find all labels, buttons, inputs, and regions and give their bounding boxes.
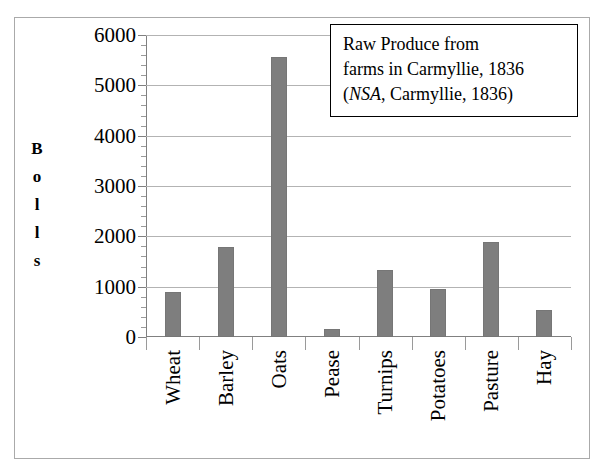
category-axis-label: Wheat <box>162 350 183 405</box>
y-axis-title-letter-1: o <box>33 163 42 191</box>
value-axis-major-tick <box>138 186 146 187</box>
annotation-line-2: farms in Carmyllie, 1836 <box>343 57 567 82</box>
y-axis-title-letter-2: l <box>35 191 40 219</box>
category-axis-tick <box>305 337 306 350</box>
category-label-slot: Pasture <box>465 350 518 460</box>
value-axis-major-tick <box>138 85 146 86</box>
y-axis-title: B o l l s <box>26 135 48 275</box>
category-axis-tick <box>465 337 466 350</box>
bar[interactable] <box>271 57 287 337</box>
y-axis-tick-labels: 0100020003000400050006000 <box>48 0 136 476</box>
bar[interactable] <box>324 329 340 337</box>
y-axis-tick-label: 3000 <box>94 174 136 199</box>
category-label-slot: Wheat <box>146 350 199 460</box>
category-axis-tick <box>571 337 572 350</box>
category-axis-tick <box>359 337 360 350</box>
category-label-slot: Hay <box>518 350 571 460</box>
annotation-line-1: Raw Produce from <box>343 32 567 57</box>
y-axis-title-letter-4: s <box>34 247 41 275</box>
y-axis-tick-label: 4000 <box>94 123 136 148</box>
value-axis-major-tick <box>138 337 146 338</box>
value-axis-major-tick <box>138 35 146 36</box>
category-axis-label: Turnips <box>375 350 396 415</box>
y-axis-tick-label: 5000 <box>94 73 136 98</box>
category-axis-tick <box>146 337 147 350</box>
chart-page: B o l l s 0100020003000400050006000 Whea… <box>0 0 603 476</box>
value-axis-major-tick <box>138 136 146 137</box>
category-axis-label: Hay <box>534 350 555 385</box>
category-axis-label: Barley <box>215 350 236 406</box>
category-axis-label: Pease <box>321 350 342 398</box>
bar[interactable] <box>536 310 552 337</box>
bar[interactable] <box>165 292 181 337</box>
category-axis-label: Oats <box>268 350 289 389</box>
annotation-line-3: (NSA, Carmyllie, 1836) <box>343 82 567 107</box>
category-axis-labels: WheatBarleyOatsPeaseTurnipsPotatoesPastu… <box>146 350 571 460</box>
y-axis-title-letter-3: l <box>35 219 40 247</box>
bar[interactable] <box>218 247 234 337</box>
category-label-slot: Turnips <box>359 350 412 460</box>
category-label-slot: Oats <box>252 350 305 460</box>
bar-slot <box>146 35 199 337</box>
category-axis-label: Pasture <box>481 350 502 412</box>
y-axis-tick-label: 2000 <box>94 224 136 249</box>
category-axis-tick <box>518 337 519 350</box>
annotation-textbox: Raw Produce from farms in Carmyllie, 183… <box>330 24 578 117</box>
y-axis-tick-label: 1000 <box>94 274 136 299</box>
bar[interactable] <box>430 289 446 337</box>
value-axis-major-tick <box>138 236 146 237</box>
annotation-source-rest: , Carmyllie, 1836) <box>381 84 513 104</box>
value-axis-major-tick <box>138 287 146 288</box>
y-axis-title-letter-0: B <box>31 135 42 163</box>
category-label-slot: Potatoes <box>412 350 465 460</box>
bar-slot <box>252 35 305 337</box>
category-axis-label: Potatoes <box>428 350 449 421</box>
category-axis-tick <box>412 337 413 350</box>
category-axis-tick <box>199 337 200 350</box>
y-axis-tick-label: 6000 <box>94 23 136 48</box>
category-label-slot: Pease <box>305 350 358 460</box>
bar[interactable] <box>377 270 393 337</box>
category-axis-tick <box>252 337 253 350</box>
y-axis-tick-label: 0 <box>126 325 137 350</box>
category-axis-ticks <box>146 337 571 350</box>
annotation-source-abbrev: NSA <box>349 84 381 104</box>
category-label-slot: Barley <box>199 350 252 460</box>
bar-slot <box>199 35 252 337</box>
bar[interactable] <box>483 242 499 337</box>
